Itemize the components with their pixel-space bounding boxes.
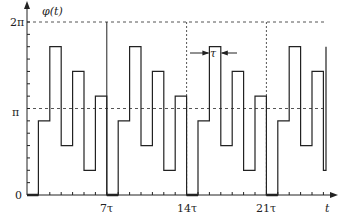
y-axis-label: φ(t) <box>42 5 63 18</box>
x-axis-label: t <box>325 202 330 215</box>
reference-lines <box>27 22 326 195</box>
y-axis-arrow-icon <box>24 1 30 9</box>
x-tick-7tau: 7τ <box>100 202 113 215</box>
axes <box>24 1 338 198</box>
tau-label: τ <box>210 47 217 60</box>
y-tick-2pi: 2π <box>10 16 24 29</box>
phi-step-line <box>27 47 326 195</box>
x-tick-21tau: 21τ <box>256 202 276 215</box>
arrow-left-icon <box>221 51 228 56</box>
phase-step-chart: φ(t) 2π π 0 7τ 14τ 21τ t τ <box>0 0 341 223</box>
x-tick-14tau: 14τ <box>177 202 197 215</box>
arrow-right-icon <box>202 51 209 56</box>
phase-waveform <box>27 47 326 195</box>
x-axis-arrow-icon <box>330 192 338 198</box>
y-tick-0: 0 <box>15 189 22 202</box>
y-tick-pi: π <box>12 106 19 119</box>
